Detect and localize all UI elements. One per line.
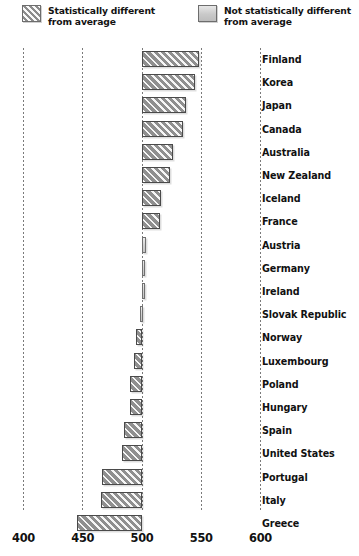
bar-slovak-republic xyxy=(140,306,143,322)
chart-row: Canada xyxy=(0,118,359,141)
x-tick-label-500: 500 xyxy=(130,531,153,545)
category-label-australia: Australia xyxy=(262,141,310,164)
category-label-austria: Austria xyxy=(262,234,300,257)
chart-row: Norway xyxy=(0,326,359,349)
chart-row: Luxembourg xyxy=(0,350,359,373)
bar-canada xyxy=(142,121,183,137)
category-label-poland: Poland xyxy=(262,373,298,396)
bar-poland xyxy=(130,376,142,392)
chart-row: Finland xyxy=(0,48,359,71)
legend-swatch-solid-icon xyxy=(198,5,217,22)
category-label-japan: Japan xyxy=(262,94,292,117)
chart-row: New Zealand xyxy=(0,164,359,187)
category-label-new-zealand: New Zealand xyxy=(262,164,331,187)
chart-row: Germany xyxy=(0,257,359,280)
legend-item-statistically-different: Statistically different from average xyxy=(22,5,155,28)
bar-finland xyxy=(142,51,199,67)
bar-norway xyxy=(136,329,142,345)
bar-australia xyxy=(142,144,173,160)
bar-luxembourg xyxy=(134,353,142,369)
chart-row: Slovak Republic xyxy=(0,303,359,326)
bar-germany xyxy=(142,260,145,276)
bar-japan xyxy=(142,97,186,113)
category-label-canada: Canada xyxy=(262,118,302,141)
category-label-spain: Spain xyxy=(262,419,292,442)
bar-austria xyxy=(142,237,146,253)
chart-row: United States xyxy=(0,442,359,465)
category-label-korea: Korea xyxy=(262,71,293,94)
chart-bars: FinlandKoreaJapanCanadaAustraliaNew Zeal… xyxy=(0,48,359,512)
bar-portugal xyxy=(102,469,142,485)
chart-row: Poland xyxy=(0,373,359,396)
category-label-slovak-republic: Slovak Republic xyxy=(262,303,346,326)
category-label-norway: Norway xyxy=(262,326,302,349)
chart-row: Italy xyxy=(0,489,359,512)
bar-italy xyxy=(101,492,142,508)
bar-korea xyxy=(142,74,195,90)
category-label-italy: Italy xyxy=(262,489,286,512)
chart-row: Australia xyxy=(0,141,359,164)
chart-row: France xyxy=(0,210,359,233)
category-label-hungary: Hungary xyxy=(262,396,307,419)
chart-row: Japan xyxy=(0,94,359,117)
bar-iceland xyxy=(142,190,161,206)
chart-row: Spain xyxy=(0,419,359,442)
x-tick-label-400: 400 xyxy=(12,531,35,545)
legend-label-statistically-different: Statistically different from average xyxy=(48,5,155,28)
category-label-united-states: United States xyxy=(262,442,335,465)
x-tick-label-450: 450 xyxy=(71,531,94,545)
x-tick-label-550: 550 xyxy=(190,531,213,545)
bar-spain xyxy=(124,422,142,438)
chart-row: Korea xyxy=(0,71,359,94)
chart-plot-area: FinlandKoreaJapanCanadaAustraliaNew Zeal… xyxy=(0,44,359,525)
chart-row: Hungary xyxy=(0,396,359,419)
chart-legend: Statistically different from average Not… xyxy=(0,0,359,44)
chart-row: Ireland xyxy=(0,280,359,303)
x-tick-label-600: 600 xyxy=(249,531,272,545)
bar-united-states xyxy=(122,445,142,461)
category-label-luxembourg: Luxembourg xyxy=(262,350,329,373)
chart-row: Austria xyxy=(0,234,359,257)
chart-x-axis: 400450500550600 xyxy=(0,525,359,556)
category-label-finland: Finland xyxy=(262,48,301,71)
bar-hungary xyxy=(130,399,142,415)
legend-swatch-hatched-icon xyxy=(22,5,41,22)
legend-item-not-statistically-different: Not statistically different from average xyxy=(198,5,351,28)
chart-row: Iceland xyxy=(0,187,359,210)
category-label-france: France xyxy=(262,210,298,233)
bar-new-zealand xyxy=(142,167,170,183)
category-label-iceland: Iceland xyxy=(262,187,301,210)
category-label-germany: Germany xyxy=(262,257,310,280)
category-label-ireland: Ireland xyxy=(262,280,300,303)
bar-ireland xyxy=(142,283,145,299)
legend-label-not-statistically-different: Not statistically different from average xyxy=(224,5,351,28)
category-label-portugal: Portugal xyxy=(262,466,308,489)
bar-france xyxy=(142,213,160,229)
chart-row: Portugal xyxy=(0,466,359,489)
